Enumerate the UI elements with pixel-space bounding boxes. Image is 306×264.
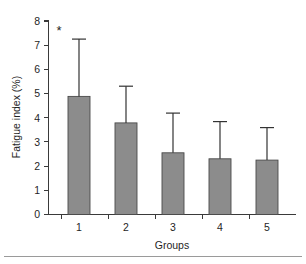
x-tick-label-4: 4 bbox=[217, 221, 223, 233]
y-tick-label-4: 4 bbox=[34, 112, 40, 124]
y-tick-label-6: 6 bbox=[34, 63, 40, 75]
y-tick-label-5: 5 bbox=[34, 87, 40, 99]
fatigue-index-bar-chart: 0 1 2 3 4 5 6 7 8 bbox=[0, 0, 306, 264]
y-tick-group bbox=[44, 21, 49, 215]
y-axis-title: Fatigue index (%) bbox=[10, 76, 22, 158]
y-tick-label-group: 0 1 2 3 4 5 6 7 8 bbox=[34, 15, 40, 221]
x-tick-label-group: 1 2 3 4 5 bbox=[76, 221, 270, 233]
x-tick-label-1: 1 bbox=[76, 221, 82, 233]
significance-asterisk: * bbox=[56, 23, 61, 38]
bar-group-2[interactable] bbox=[115, 123, 137, 215]
x-tick-label-5: 5 bbox=[264, 221, 270, 233]
x-tick-group bbox=[62, 215, 250, 220]
y-tick-label-1: 1 bbox=[34, 184, 40, 196]
x-axis-title: Groups bbox=[155, 239, 189, 251]
x-tick-label-2: 2 bbox=[123, 221, 129, 233]
bar-group-5[interactable] bbox=[256, 160, 278, 214]
y-tick-label-0: 0 bbox=[34, 208, 40, 220]
bar-group-3[interactable] bbox=[162, 153, 184, 215]
bar-group-4[interactable] bbox=[209, 159, 231, 215]
error-bar-group bbox=[72, 39, 274, 160]
bar-group-1[interactable] bbox=[68, 96, 90, 214]
y-tick-label-7: 7 bbox=[34, 39, 40, 51]
x-tick-label-3: 3 bbox=[170, 221, 176, 233]
figure-container: 0 1 2 3 4 5 6 7 8 bbox=[0, 0, 306, 264]
y-tick-label-3: 3 bbox=[34, 136, 40, 148]
y-tick-label-2: 2 bbox=[34, 160, 40, 172]
y-tick-label-8: 8 bbox=[34, 15, 40, 27]
